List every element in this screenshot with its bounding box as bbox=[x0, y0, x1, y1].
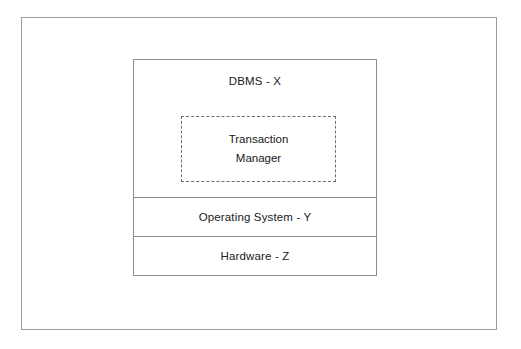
transaction-manager-label-line-2: Manager bbox=[236, 149, 281, 168]
figure-frame: DBMS - X Transaction Manager Operating S… bbox=[21, 17, 497, 330]
layer-stack: DBMS - X Transaction Manager Operating S… bbox=[133, 59, 377, 276]
layer-operating-system-label: Operating System - Y bbox=[134, 211, 376, 223]
layer-hardware-label: Hardware - Z bbox=[134, 250, 376, 262]
transaction-manager-box: Transaction Manager bbox=[181, 116, 336, 182]
layer-operating-system: Operating System - Y bbox=[133, 197, 377, 237]
layer-dbms-label: DBMS - X bbox=[134, 75, 376, 87]
layer-dbms: DBMS - X Transaction Manager bbox=[133, 59, 377, 198]
transaction-manager-label-line-1: Transaction bbox=[229, 130, 289, 149]
layer-hardware: Hardware - Z bbox=[133, 236, 377, 276]
